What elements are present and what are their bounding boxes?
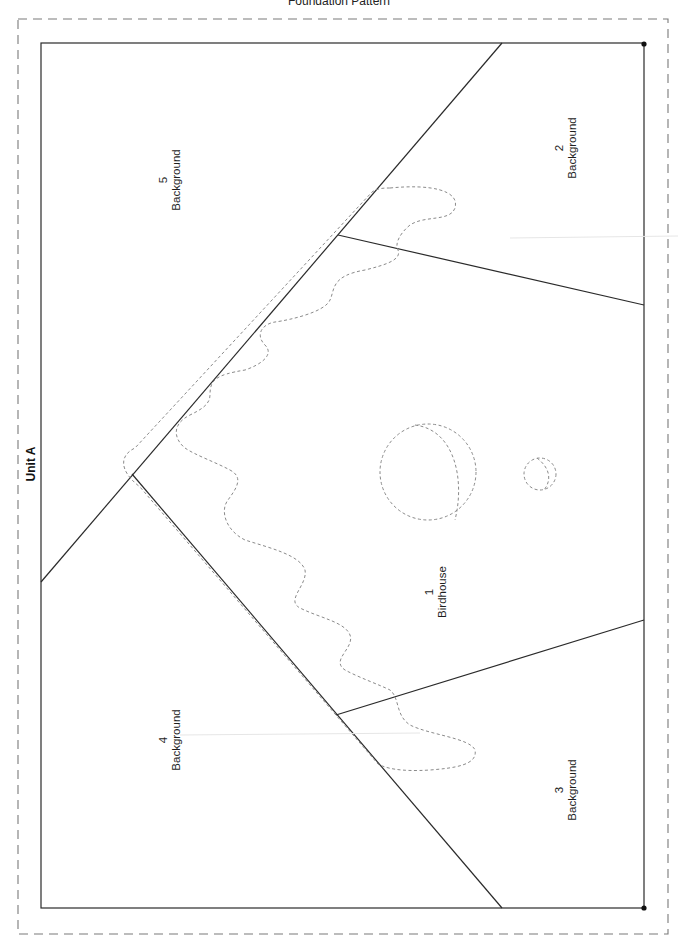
- section-name: Background: [170, 709, 183, 770]
- section-name: Background: [566, 117, 579, 178]
- applique-outline: [124, 187, 556, 771]
- entry-hole-outer: [380, 424, 476, 520]
- section-name: Birdhouse: [436, 566, 449, 618]
- section-name: Background: [566, 759, 579, 820]
- unit-label: Unit A: [24, 447, 38, 482]
- entry-hole-inner: [415, 425, 459, 520]
- section-number: 5: [157, 149, 170, 210]
- seam-roof-upper: [41, 43, 502, 582]
- roof-trim-outline: [124, 187, 476, 771]
- registration-dot-top-right: [641, 41, 646, 46]
- section-number: 3: [553, 759, 566, 820]
- section-name: Background: [170, 149, 183, 210]
- perch-hole-inner: [537, 458, 549, 490]
- registration-dot-bottom-right: [641, 905, 646, 910]
- seam-section-2: [338, 235, 644, 305]
- section-label-4: 4 Background: [157, 709, 183, 770]
- section-label-1: 1 Birdhouse: [423, 566, 449, 618]
- section-label-3: 3 Background: [553, 759, 579, 820]
- section-number: 1: [423, 566, 436, 618]
- section-label-2: 2 Background: [553, 117, 579, 178]
- section-number: 2: [553, 117, 566, 178]
- perch-hole-outer: [524, 458, 556, 490]
- section-label-5: 5 Background: [157, 149, 183, 210]
- section-number: 4: [157, 709, 170, 770]
- scan-artifacts: [180, 236, 678, 735]
- seam-section-3: [336, 620, 644, 715]
- seam-roof-lower: [132, 474, 502, 908]
